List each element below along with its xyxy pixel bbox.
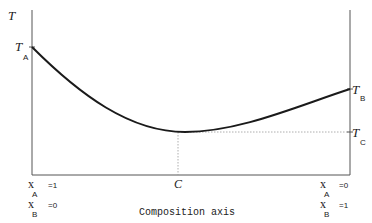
label-TC: T bbox=[352, 125, 360, 140]
label-TA: T bbox=[15, 39, 23, 54]
left-xA-value: =1 bbox=[48, 181, 58, 190]
label-TC-sub: C bbox=[360, 138, 366, 147]
left-xB: x bbox=[28, 197, 34, 211]
left-xB-sub: B bbox=[32, 210, 37, 219]
right-xB-sub: B bbox=[324, 210, 329, 219]
right-xA: x bbox=[320, 177, 326, 191]
label-C: C bbox=[174, 177, 183, 191]
right-xA-value: =0 bbox=[339, 181, 349, 190]
right-xB: x bbox=[320, 197, 326, 211]
left-xA: x bbox=[28, 177, 34, 191]
temperature-curve bbox=[32, 47, 350, 132]
right-xB-value: =1 bbox=[339, 201, 349, 210]
label-TB: T bbox=[352, 82, 360, 97]
x-axis-label: Composition axis bbox=[139, 207, 235, 218]
y-axis-label: T bbox=[8, 8, 16, 23]
phase-diagram: T T A T B T C C x A =1 x B =0 x A =0 x B… bbox=[0, 0, 372, 223]
label-TB-sub: B bbox=[360, 94, 365, 103]
left-xB-value: =0 bbox=[48, 201, 58, 210]
label-TA-sub: A bbox=[23, 53, 29, 62]
